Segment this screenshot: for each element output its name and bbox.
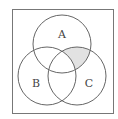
set-b-label: B	[32, 77, 40, 90]
set-a-label: A	[57, 28, 67, 41]
set-c-label: C	[85, 77, 93, 90]
venn-diagram: A B C	[0, 0, 118, 119]
set-b-circle	[18, 47, 76, 105]
